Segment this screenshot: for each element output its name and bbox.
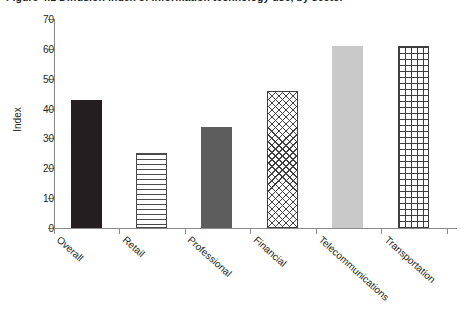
x-tick-mark: [250, 228, 251, 234]
x-label-overall: Overall: [55, 234, 86, 263]
x-label-telecommunications: Telecommunications: [317, 234, 392, 303]
x-tick-mark: [381, 228, 382, 234]
x-label-financial: Financial: [252, 234, 289, 269]
bar-retail: [136, 153, 167, 228]
x-label-retail: Retail: [121, 234, 147, 259]
x-tick-mark: [54, 228, 55, 234]
bar-overall: [71, 100, 102, 228]
y-tick-label: 30: [10, 133, 54, 144]
y-tick-label: 10: [10, 193, 54, 204]
x-axis-line: [54, 228, 457, 229]
x-label-professional: Professional: [186, 234, 234, 279]
x-tick-mark: [447, 228, 448, 234]
y-tick-label: 50: [10, 74, 54, 85]
bar-transportation: [398, 46, 429, 228]
bar-professional: [201, 127, 232, 229]
x-tick-mark: [119, 228, 120, 234]
y-tick-label: 40: [10, 104, 54, 115]
bar-chart: Figure 4.1 Diffusion index of informatio…: [0, 0, 464, 318]
x-label-transportation: Transportation: [383, 234, 438, 285]
bar-financial: [267, 91, 298, 228]
y-tick-label: 70: [10, 14, 54, 25]
x-tick-mark: [185, 228, 186, 234]
y-tick-label: 60: [10, 44, 54, 55]
y-tick-label: 0: [10, 223, 54, 234]
x-tick-mark: [316, 228, 317, 234]
bar-telecommunications: [332, 46, 363, 228]
y-tick-label: 20: [10, 163, 54, 174]
plot-area: [54, 19, 457, 228]
figure-title: Figure 4.1 Diffusion index of informatio…: [6, 0, 456, 3]
